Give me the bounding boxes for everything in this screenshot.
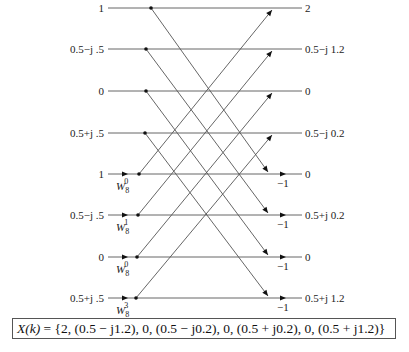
twiddle-factor-w8-0: W80 (116, 177, 129, 195)
output-label-5: 0.5+j 0.2 (305, 209, 345, 221)
output-label-6: 0 (305, 251, 311, 263)
neg1-arrow-0 (280, 171, 286, 176)
neg1-arrow-2 (280, 254, 286, 259)
multiplier-neg1-row5: −1 (277, 218, 289, 230)
arrowhead-down-3 (262, 290, 268, 296)
cross-line-down-0 (151, 8, 268, 172)
output-label-0: 2 (305, 2, 311, 14)
output-label-3: 0.5−j 0.2 (305, 127, 345, 139)
input-label-4: 1 (99, 168, 105, 180)
output-label-4: 0 (305, 168, 311, 180)
neg1-arrow-3 (280, 295, 286, 300)
input-label-7: 0.5+j .5 (70, 292, 105, 304)
signal-lines (108, 8, 302, 298)
twiddle-arrow-0 (122, 171, 128, 176)
input-label-1: 0.5−j .5 (70, 43, 105, 55)
node-dots (134, 6, 153, 300)
node-dot-top-0 (149, 6, 153, 10)
arrowhead-down-0 (262, 166, 268, 172)
twiddle-arrow-3 (122, 295, 128, 300)
cross-line-up-2 (137, 93, 272, 257)
output-label-2: 0 (305, 85, 311, 97)
input-label-2: 0 (99, 85, 105, 97)
node-dot-bottom-2 (135, 255, 139, 259)
node-dot-bottom-1 (136, 213, 140, 217)
cross-line-down-3 (145, 133, 268, 296)
twiddle-factor-w8-3: W83 (116, 301, 129, 319)
multiplier-neg1-row4: −1 (277, 177, 289, 189)
node-dot-bottom-0 (137, 172, 141, 176)
result-lhs: X(k) (17, 321, 40, 336)
result-values: = {2, (0.5 − j1.2), 0, (0.5 − j0.2), 0, … (40, 321, 385, 336)
input-label-3: 0.5+j .5 (70, 127, 105, 139)
arrowhead-down-2 (262, 249, 268, 255)
node-dot-bottom-3 (134, 296, 138, 300)
output-label-7: 0.5+j 1.2 (305, 292, 345, 304)
output-label-1: 0.5−j 1.2 (305, 43, 345, 55)
twiddle-arrow-2 (122, 254, 128, 259)
node-dot-top-2 (144, 89, 148, 93)
twiddle-arrow-1 (122, 212, 128, 217)
input-label-6: 0 (99, 251, 105, 263)
input-label-0: 1 (99, 2, 105, 14)
node-dot-top-1 (144, 47, 148, 51)
input-label-5: 0.5−j .5 (70, 209, 105, 221)
node-dot-top-3 (143, 131, 147, 135)
multiplier-neg1-row7: −1 (277, 301, 289, 313)
result-equation-box: X(k) = {2, (0.5 − j1.2), 0, (0.5 − j0.2)… (12, 318, 396, 339)
butterfly-diagram: 1 0.5−j .5 0 0.5+j .5 1 0.5−j .5 0 0.5+j… (0, 0, 409, 352)
arrowhead-down-1 (262, 207, 268, 213)
twiddle-factor-w8-0-b: W80 (116, 260, 129, 278)
cross-line-down-2 (146, 91, 268, 255)
arrowhead-up-0 (266, 10, 272, 16)
multiplier-neg1-row6: −1 (277, 260, 289, 272)
neg1-arrow-1 (280, 212, 286, 217)
twiddle-factor-w8-1: W81 (116, 218, 129, 236)
